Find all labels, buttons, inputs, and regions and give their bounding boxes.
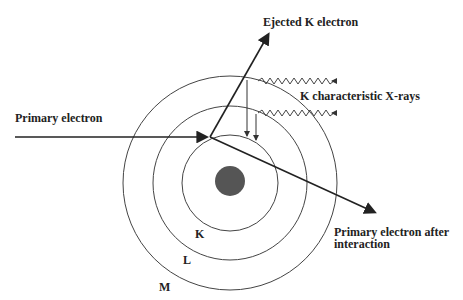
xray-wave-2 bbox=[258, 110, 334, 116]
primary-electron-label: Primary electron bbox=[15, 112, 102, 125]
xray-label: K characteristic X-rays bbox=[300, 90, 420, 103]
atom-diagram bbox=[0, 0, 463, 300]
ejected-electron-label: Ejected K electron bbox=[263, 16, 358, 29]
after-interaction-label-2: interaction bbox=[334, 238, 390, 251]
shell-k-label: K bbox=[195, 228, 204, 241]
shell-l-label: L bbox=[183, 254, 191, 267]
ejected-electron-arrow bbox=[210, 35, 268, 137]
shell-m-label: M bbox=[159, 281, 170, 294]
nucleus bbox=[215, 166, 245, 196]
